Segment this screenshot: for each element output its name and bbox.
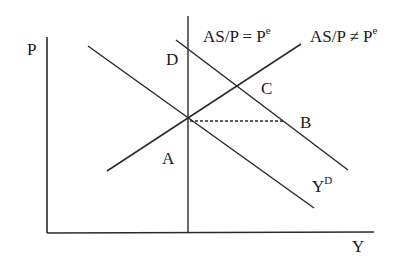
point-a-label: A	[162, 150, 174, 167]
vertical-curve-text: AS/P = P	[203, 27, 266, 46]
demand-curve-sup: D	[324, 174, 332, 186]
vertical-curve-label: AS/P = Pe	[203, 26, 271, 45]
demand-curve-original	[88, 46, 314, 208]
y-axis-label: P	[27, 41, 36, 58]
upward-curve-sup: e	[373, 24, 378, 36]
point-d-label: D	[166, 51, 178, 68]
demand-curve-shifted	[176, 40, 348, 170]
upward-curve-text: AS/P ≠ P	[310, 27, 373, 46]
upward-supply-curve	[107, 44, 301, 171]
demand-curve-label: YD	[312, 176, 332, 195]
upward-curve-label: AS/P ≠ Pe	[310, 26, 377, 45]
vertical-curve-sup: e	[266, 24, 271, 36]
point-b-label: B	[300, 114, 311, 131]
x-axis-label: Y	[352, 238, 364, 255]
x-axis	[47, 232, 374, 233]
demand-curve-text: Y	[312, 177, 324, 196]
point-c-label: C	[261, 80, 272, 97]
